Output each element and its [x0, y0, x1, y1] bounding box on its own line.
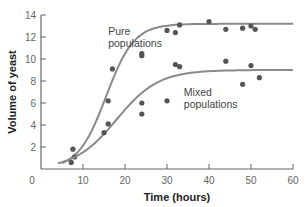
- data-point: [164, 98, 169, 103]
- x-tick-label: 30: [161, 175, 173, 186]
- data-point: [240, 26, 245, 31]
- x-tick-label: 60: [287, 175, 299, 186]
- data-point: [248, 63, 253, 68]
- data-point: [240, 82, 245, 87]
- x-tick-label: 10: [77, 175, 89, 186]
- data-point: [248, 23, 253, 28]
- data-point: [139, 100, 144, 105]
- series-annotation: Mixedpopulations: [184, 86, 238, 110]
- data-point: [164, 28, 169, 33]
- y-tick-label: 8: [30, 76, 36, 87]
- series-mixed-populations: [58, 59, 293, 165]
- data-point: [206, 19, 211, 24]
- y-tick-label: 4: [30, 120, 36, 131]
- data-point: [257, 75, 262, 80]
- fit-curve: [58, 70, 293, 163]
- data-point: [110, 66, 115, 71]
- data-point: [253, 27, 258, 32]
- y-tick-label: 12: [25, 32, 37, 43]
- data-point: [69, 160, 74, 165]
- data-point: [139, 111, 144, 116]
- x-tick-label: 50: [245, 175, 257, 186]
- y-tick-label: 14: [25, 10, 37, 21]
- data-point: [177, 64, 182, 69]
- data-point: [106, 98, 111, 103]
- axes: 24681012140102030405060: [25, 10, 299, 187]
- data-point: [106, 121, 111, 126]
- data-point: [139, 51, 144, 56]
- x-tick-label: 40: [203, 175, 215, 186]
- data-point: [177, 22, 182, 27]
- chart: 24681012140102030405060Time (hours)Volum…: [0, 0, 306, 207]
- data-point: [223, 27, 228, 32]
- data-point: [70, 147, 75, 152]
- x-tick-label: 20: [119, 175, 131, 186]
- y-axis-label: Volume of yeast: [6, 50, 18, 134]
- data-point: [101, 130, 106, 135]
- x-tick-label: 0: [29, 175, 35, 186]
- data-point: [223, 59, 228, 64]
- x-axis-label: Time (hours): [144, 191, 211, 203]
- y-tick-label: 10: [25, 54, 37, 65]
- y-tick-label: 2: [30, 142, 36, 153]
- y-tick-label: 6: [30, 98, 36, 109]
- data-point: [173, 30, 178, 35]
